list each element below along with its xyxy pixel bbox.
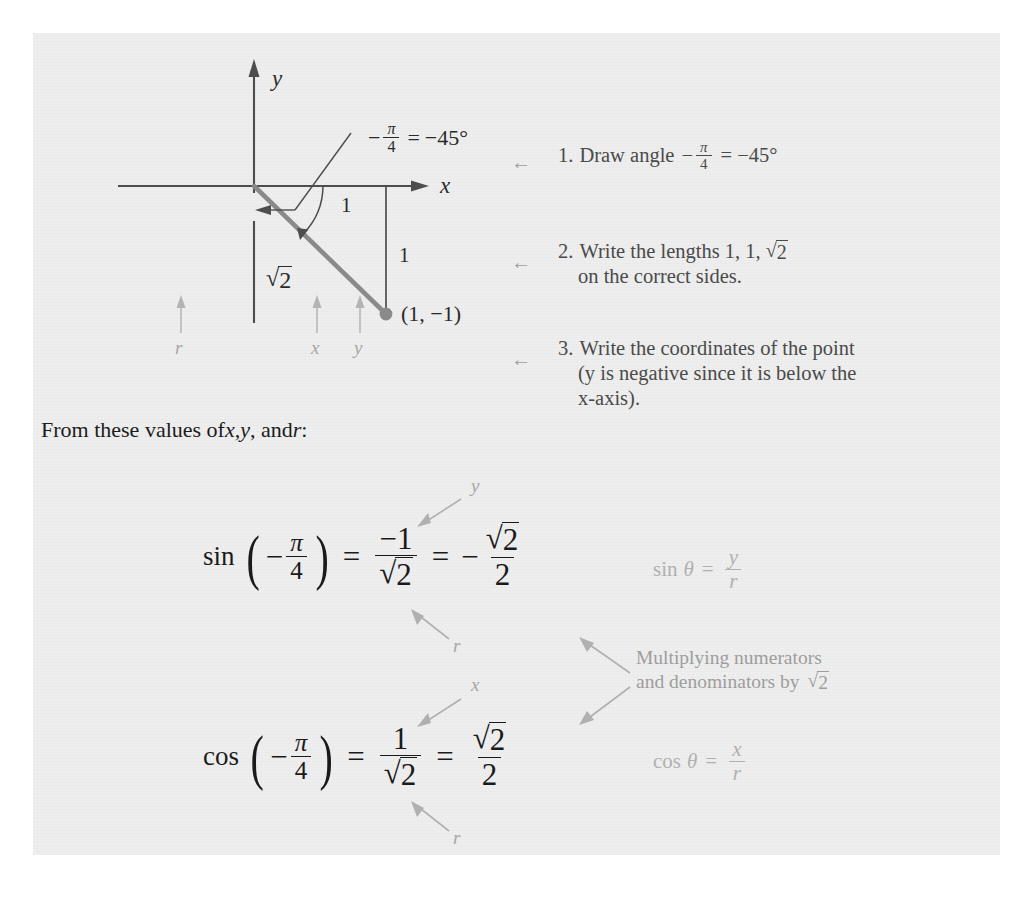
- coordinate-diagram: y x − π 4 = −45° 1 1 √ 2 (1,: [33, 33, 553, 393]
- step-3-line3: x-axis).: [558, 386, 856, 411]
- step-2-text: Write the lengths 1, 1,: [579, 239, 760, 264]
- side-note-line2: and denominators by √ 2: [636, 670, 829, 694]
- step-1-fraction-denominator: 4: [696, 155, 712, 173]
- sine-identity-numerator: y: [725, 546, 742, 569]
- x-indicator-arrowhead: [313, 295, 322, 308]
- y-axis-label: y: [272, 66, 282, 92]
- step-1-text-after: = −45°: [721, 143, 778, 168]
- step-1-fraction: π 4: [696, 139, 712, 173]
- cosine-denominator-callout-arrow: [403, 795, 493, 845]
- step-2-radicand: 2: [776, 240, 788, 263]
- cosine-arg-fraction: π 4: [291, 729, 312, 785]
- angle-minus-sign: −: [368, 125, 380, 151]
- y-axis-arrowhead: [249, 59, 260, 77]
- sine-middle-radical-sign: √: [379, 557, 396, 588]
- lead-in-var-r: r: [293, 417, 302, 443]
- step-2-arrow: ←: [511, 250, 549, 275]
- cosine-identity-denominator: r: [729, 761, 745, 786]
- x-axis-arrowhead: [411, 181, 429, 192]
- step-1-text: Draw angle: [579, 143, 674, 168]
- lead-in-part1: From these values of: [41, 417, 225, 443]
- sine-result-denominator: 2: [491, 557, 515, 593]
- angle-equals: =: [407, 125, 419, 151]
- step-1-minus: −: [681, 143, 693, 168]
- cosine-middle-radicand: 2: [400, 757, 418, 792]
- angle-degrees: −45°: [425, 125, 468, 151]
- angle-fraction: π 4: [383, 120, 399, 156]
- diagram-svg: [33, 33, 553, 393]
- cosine-middle-radical-sign: √: [384, 757, 401, 788]
- angle-leader-arrowhead: [255, 205, 271, 215]
- cosine-denominator-callout-label: r: [453, 827, 460, 849]
- lead-in-var-y: y: [240, 417, 250, 443]
- cosine-arg-denominator: 4: [291, 756, 312, 785]
- lead-in-sep2: , and: [250, 417, 293, 443]
- step-3-number: 3.: [558, 336, 573, 361]
- step-1-fraction-numerator: π: [696, 139, 712, 155]
- cosine-close-paren: ): [320, 739, 333, 776]
- cosine-result-denominator: 2: [478, 757, 502, 793]
- step-2: ← 2. Write the lengths 1, 1, √ 2 on the …: [558, 239, 788, 289]
- sine-close-paren: ): [315, 539, 328, 576]
- sine-identity: sin θ = y r: [653, 546, 745, 593]
- sine-identity-equals: =: [702, 557, 714, 582]
- sine-denominator-callout-label: r: [453, 635, 460, 657]
- angle-label: − π 4 = −45°: [368, 120, 468, 156]
- angle-fraction-denominator: 4: [383, 137, 399, 156]
- cosine-identity-theta: θ: [687, 749, 697, 774]
- cosine-identity-fraction: x r: [728, 738, 745, 785]
- sine-numerator-callout-label: y: [471, 475, 479, 497]
- step-1-number: 1.: [558, 143, 573, 168]
- x-component-label: x: [311, 337, 319, 359]
- step-3-arrow: ←: [511, 347, 549, 372]
- r-indicator-arrowhead: [177, 295, 186, 308]
- angle-fraction-numerator: π: [383, 120, 399, 137]
- step-1-arrow: ←: [511, 150, 549, 175]
- sine-result-sign: −: [461, 539, 478, 575]
- step-3: ← 3. Write the coordinates of the point …: [558, 336, 856, 411]
- side-note-line1: Multiplying numerators: [636, 646, 829, 670]
- sine-middle-radicand: 2: [395, 557, 413, 592]
- lead-in-sentence: From these values of x , y , and r :: [41, 417, 307, 443]
- point-marker: [380, 308, 393, 321]
- sine-open-paren: (: [246, 539, 259, 576]
- y-indicator-arrowhead: [356, 295, 365, 308]
- side-note: Multiplying numerators and denominators …: [636, 646, 829, 694]
- sine-arg-minus: −: [266, 539, 283, 575]
- cosine-equals-1: =: [347, 739, 364, 775]
- sine-identity-function: sin: [653, 557, 678, 582]
- sine-arg-denominator: 4: [286, 556, 307, 585]
- sine-arg-fraction: π 4: [286, 529, 307, 585]
- sine-equals-2: =: [432, 539, 449, 575]
- sine-result-radicand: 2: [502, 522, 520, 557]
- top-side-length-label: 1: [341, 193, 352, 218]
- sine-equals-1: =: [343, 539, 360, 575]
- textbook-page: y x − π 4 = −45° 1 1 √ 2 (1,: [33, 33, 1000, 855]
- angle-arc: [303, 186, 323, 234]
- cosine-arg-numerator: π: [291, 729, 312, 756]
- lead-in-var-x: x: [225, 417, 235, 443]
- step-3-text: Write the coordinates of the point: [579, 336, 854, 361]
- step-2-number: 2.: [558, 239, 573, 264]
- cosine-equals-2: =: [436, 739, 453, 775]
- cosine-numerator-callout-label: x: [471, 674, 479, 696]
- cosine-numerator-callout-arrow: [403, 685, 493, 735]
- sine-identity-denominator: r: [725, 569, 741, 594]
- sine-arg-numerator: π: [286, 529, 307, 556]
- hypotenuse-length-label: √ 2: [266, 265, 292, 293]
- cosine-identity-function: cos: [653, 749, 681, 774]
- x-axis-label: x: [440, 173, 450, 199]
- cosine-function-name: cos: [203, 741, 239, 772]
- cosine-identity-equals: =: [705, 749, 717, 774]
- step-1: ← 1. Draw angle − π 4 = −45°: [558, 139, 777, 173]
- sine-identity-fraction: y r: [725, 546, 742, 593]
- y-component-label: y: [354, 337, 362, 359]
- sine-denominator-callout-arrow: [403, 603, 493, 653]
- lead-in-part2: :: [301, 417, 307, 443]
- sine-function-name: sin: [203, 541, 235, 572]
- right-side-length-label: 1: [399, 243, 410, 268]
- cosine-middle-denominator: √ 2: [380, 755, 422, 792]
- step-2-line2: on the correct sides.: [558, 264, 788, 289]
- point-coordinates-label: (1, −1): [401, 301, 461, 327]
- side-note-radicand: 2: [817, 671, 829, 693]
